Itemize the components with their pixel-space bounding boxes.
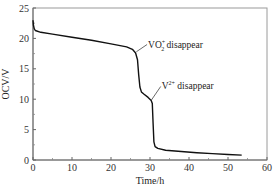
plot-frame — [33, 8, 267, 160]
annotation-v2-disappear: V2+ disappear — [162, 80, 215, 91]
x-tick-label: 10 — [67, 162, 77, 173]
x-tick-label: 60 — [262, 162, 272, 173]
y-tick-label: 10 — [19, 94, 29, 105]
ocv-time-chart: 0510152025 0102030405060 VO+2 disappearV… — [0, 0, 276, 190]
x-tick-label: 30 — [145, 162, 155, 173]
annotations: VO+2 disappearV2+ disappear — [136, 39, 214, 101]
x-tick-label: 50 — [223, 162, 233, 173]
y-tick-label: 0 — [24, 155, 29, 166]
x-axis-title: Time/h — [136, 175, 165, 186]
x-tick-label: 0 — [31, 162, 36, 173]
y-tick-label: 25 — [19, 3, 29, 14]
annotation-vo2-disappear: VO+2 disappear — [148, 39, 204, 52]
y-tick-label: 5 — [24, 124, 29, 135]
y-tick-label: 15 — [19, 63, 29, 74]
y-axis-title: OCV/V — [0, 68, 11, 100]
y-tick-label: 20 — [19, 33, 29, 44]
x-tick-label: 20 — [106, 162, 116, 173]
x-axis-ticks: 0102030405060 — [31, 157, 273, 173]
x-tick-label: 40 — [184, 162, 194, 173]
